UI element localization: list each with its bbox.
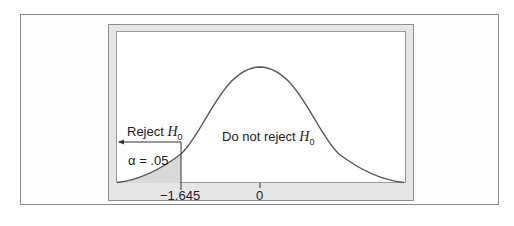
tick-label-critical: −1.645 [160, 188, 200, 203]
do-not-reject-label: Do not reject H0 [222, 129, 314, 147]
reject-label: Reject H0 [127, 124, 183, 142]
tick-label-zero: 0 [256, 188, 263, 203]
alpha-label: α = .05 [128, 153, 168, 168]
arrow-left-icon [118, 140, 124, 145]
